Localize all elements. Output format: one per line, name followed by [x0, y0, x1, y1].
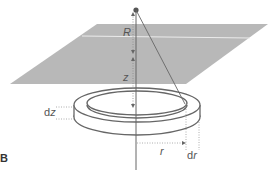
- label-r: r: [160, 146, 164, 157]
- label-z: z: [123, 72, 129, 83]
- diagram-canvas: [0, 0, 275, 172]
- label-R: R: [123, 27, 131, 38]
- label-dr: dr: [187, 150, 197, 161]
- panel-label: B: [0, 153, 8, 164]
- horizontal-plane: [10, 24, 268, 84]
- ring-inner-top: [87, 91, 187, 115]
- label-dz: dz: [44, 107, 56, 118]
